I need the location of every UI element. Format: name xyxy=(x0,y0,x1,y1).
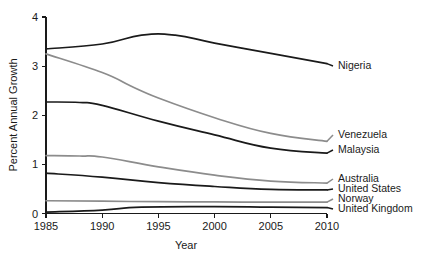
series-leader-line xyxy=(327,199,333,202)
series-labels: NigeriaVenezuelaMalaysiaAustraliaUnited … xyxy=(338,59,413,214)
y-tick-label: 3 xyxy=(32,60,38,72)
y-tick-label: 0 xyxy=(32,208,38,220)
x-tick-labels: 198519901995200020052010 xyxy=(34,220,339,232)
y-tick-label: 1 xyxy=(32,158,38,170)
x-tick-label: 1985 xyxy=(34,220,58,232)
series-line-malaysia xyxy=(46,102,327,153)
x-axis-title: Year xyxy=(175,239,198,251)
y-axis-title: Percent Annual Growth xyxy=(7,58,19,171)
y-tick-label: 4 xyxy=(32,11,38,23)
x-tick-label: 1990 xyxy=(90,220,114,232)
x-tick-label: 2000 xyxy=(202,220,226,232)
series-label-nigeria: Nigeria xyxy=(338,59,371,71)
y-tick-label: 2 xyxy=(32,109,38,121)
series-line-norway xyxy=(46,201,327,202)
series-label-malaysia: Malaysia xyxy=(338,143,380,155)
x-tick-label: 2005 xyxy=(259,220,283,232)
x-tick-label: 2010 xyxy=(315,220,339,232)
series-leader-line xyxy=(327,64,333,66)
series-label-venezuela: Venezuela xyxy=(338,128,387,140)
series-leader-line xyxy=(327,135,333,141)
x-tick-label: 1995 xyxy=(146,220,170,232)
y-axis: 01234 xyxy=(32,11,46,220)
series-leader-line xyxy=(327,189,333,190)
series-line-australia xyxy=(46,156,327,184)
series-line-united-kingdom xyxy=(46,207,327,212)
x-axis: 198519901995200020052010 xyxy=(34,214,339,232)
series-leader-line xyxy=(327,179,333,183)
series-leader-line xyxy=(327,208,333,209)
series-label-united-kingdom: United Kingdom xyxy=(338,202,413,214)
line-chart: 01234 198519901995200020052010 NigeriaVe… xyxy=(0,0,427,257)
chart-container: 01234 198519901995200020052010 NigeriaVe… xyxy=(0,0,427,257)
y-tick-labels: 01234 xyxy=(32,11,38,220)
series-line-nigeria xyxy=(46,34,327,64)
series-lines xyxy=(46,34,333,212)
series-leader-line xyxy=(327,150,333,153)
